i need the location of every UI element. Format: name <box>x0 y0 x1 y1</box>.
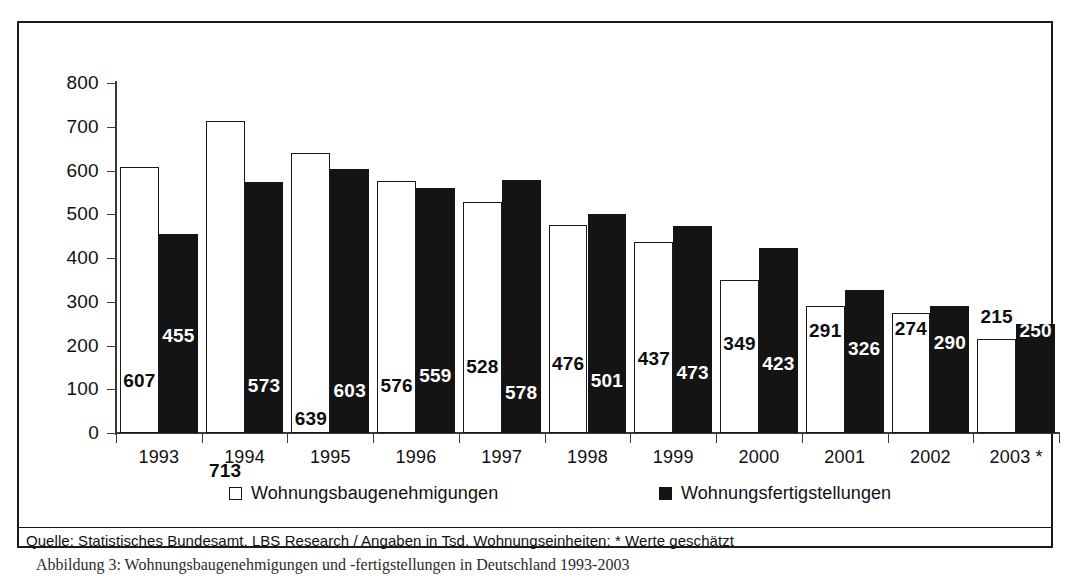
bar-completions <box>845 290 884 433</box>
bar-value-label: 250 <box>1019 321 1051 340</box>
bar-value-label: 559 <box>419 366 451 385</box>
bar-value-label: 476 <box>552 354 584 373</box>
bar-permits <box>291 153 330 433</box>
y-axis-label: 700 <box>19 116 99 138</box>
y-tick <box>107 302 116 303</box>
bar-value-label: 607 <box>123 371 155 390</box>
bar-permits <box>720 280 759 433</box>
bar-permits <box>549 225 588 433</box>
y-tick <box>107 258 116 259</box>
x-tick <box>202 434 203 443</box>
x-axis-label: 2000 <box>716 447 802 468</box>
bar-value-label: 349 <box>723 334 755 353</box>
x-tick <box>116 434 117 443</box>
x-tick <box>973 434 974 443</box>
chart-screenshot: 8007006005004003002001000 19931994199519… <box>0 0 1071 579</box>
source-note: Quelle: Statistisches Bundesamt, LBS Res… <box>26 532 1046 549</box>
legend-swatch-open-icon <box>229 487 242 500</box>
x-tick <box>459 434 460 443</box>
legend-item-permits: Wohnungsbaugenehmigungen <box>229 483 498 504</box>
legend-item-completions: Wohnungsfertigstellungen <box>659 483 891 504</box>
bar-completions <box>673 226 712 433</box>
bar-permits <box>206 121 245 433</box>
y-axis-label: 0 <box>19 422 99 444</box>
y-axis-label: 800 <box>19 72 99 94</box>
x-axis-label: 1993 <box>116 447 202 468</box>
bar-value-label: 713 <box>209 461 241 480</box>
y-axis-label: 200 <box>19 335 99 357</box>
bar-completions <box>588 214 627 433</box>
bar-value-label: 528 <box>466 357 498 376</box>
y-tick <box>107 346 116 347</box>
bar-value-label: 576 <box>380 376 412 395</box>
bar-value-label: 274 <box>895 319 927 338</box>
y-axis-label: 100 <box>19 378 99 400</box>
bar-permits <box>977 339 1016 433</box>
y-tick <box>107 127 116 128</box>
figure-caption: Abbildung 3: Wohnungsbaugenehmigungen un… <box>36 556 1036 574</box>
bar-permits <box>120 167 159 433</box>
bar-value-label: 501 <box>591 371 623 390</box>
x-axis-label: 2001 <box>802 447 888 468</box>
x-axis-label: 1995 <box>287 447 373 468</box>
x-tick <box>716 434 717 443</box>
bar-value-label: 290 <box>934 333 966 352</box>
x-tick <box>1059 434 1060 443</box>
y-tick <box>107 214 116 215</box>
y-tick <box>107 389 116 390</box>
source-divider <box>19 527 1051 528</box>
bar-completions <box>930 306 969 433</box>
x-tick <box>888 434 889 443</box>
y-axis-label: 400 <box>19 247 99 269</box>
x-tick <box>630 434 631 443</box>
x-axis-label: 1998 <box>545 447 631 468</box>
chart-frame: 8007006005004003002001000 19931994199519… <box>17 21 1053 548</box>
x-axis-label: 1999 <box>630 447 716 468</box>
bar-value-label: 291 <box>809 321 841 340</box>
bar-value-label: 423 <box>762 354 794 373</box>
y-tick <box>107 83 116 84</box>
bar-value-label: 326 <box>848 339 880 358</box>
bar-value-label: 437 <box>638 349 670 368</box>
chart-legend: Wohnungsbaugenehmigungen Wohnungsfertigs… <box>19 483 1055 517</box>
x-axis-label: 2002 <box>888 447 974 468</box>
y-tick <box>107 171 116 172</box>
x-tick <box>545 434 546 443</box>
bar-value-label: 639 <box>295 409 327 428</box>
bar-value-label: 578 <box>505 383 537 402</box>
y-axis-label: 300 <box>19 291 99 313</box>
bar-completions <box>759 248 798 433</box>
x-axis-label: 1996 <box>373 447 459 468</box>
x-tick <box>802 434 803 443</box>
x-tick <box>287 434 288 443</box>
bar-permits <box>463 202 502 433</box>
bar-permits <box>634 242 673 433</box>
bar-value-label: 473 <box>677 363 709 382</box>
plot-area: 6074557135736396035765595285784765014374… <box>116 83 1059 433</box>
legend-swatch-solid-icon <box>659 487 672 500</box>
x-axis-label: 2003 * <box>973 447 1059 468</box>
y-axis-label: 600 <box>19 160 99 182</box>
y-tick <box>107 433 116 434</box>
x-tick <box>373 434 374 443</box>
bar-value-label: 603 <box>334 381 366 400</box>
bar-completions <box>416 188 455 433</box>
y-axis-label: 500 <box>19 203 99 225</box>
bar-value-label: 573 <box>248 376 280 395</box>
bar-value-label: 215 <box>981 307 1013 326</box>
legend-label-permits: Wohnungsbaugenehmigungen <box>251 483 498 504</box>
legend-label-completions: Wohnungsfertigstellungen <box>681 483 891 504</box>
x-axis-label: 1997 <box>459 447 545 468</box>
bar-value-label: 455 <box>162 326 194 345</box>
